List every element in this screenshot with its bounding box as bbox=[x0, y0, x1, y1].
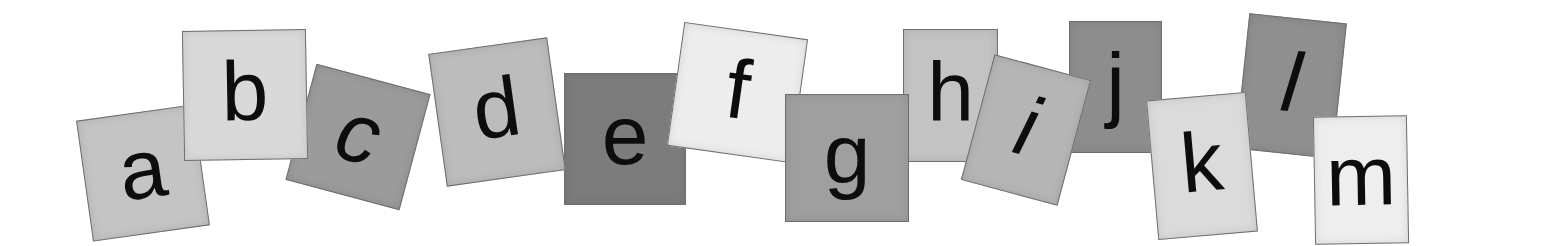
letter-tile-g: g bbox=[785, 94, 909, 222]
letter-a: a bbox=[113, 124, 171, 214]
letter-i: i bbox=[1007, 83, 1047, 169]
letter-g: g bbox=[824, 112, 871, 196]
alphabet-tiles-illustration: a b c d e f g h i j k l m bbox=[0, 0, 1554, 246]
letter-d: d bbox=[467, 63, 525, 153]
letter-tile-b: b bbox=[182, 29, 308, 161]
letter-e: e bbox=[602, 93, 649, 177]
letter-j: j bbox=[1106, 41, 1125, 125]
letter-h: h bbox=[927, 50, 974, 134]
letter-f: f bbox=[721, 45, 756, 131]
letter-m: m bbox=[1325, 133, 1396, 218]
letter-k: k bbox=[1177, 118, 1226, 205]
letter-c: c bbox=[328, 87, 390, 179]
letter-b: b bbox=[221, 49, 269, 134]
letter-tile-k: k bbox=[1146, 92, 1258, 240]
letter-l: l bbox=[1278, 39, 1305, 124]
letter-tile-m: m bbox=[1313, 115, 1409, 245]
letter-tile-d: d bbox=[428, 37, 565, 186]
